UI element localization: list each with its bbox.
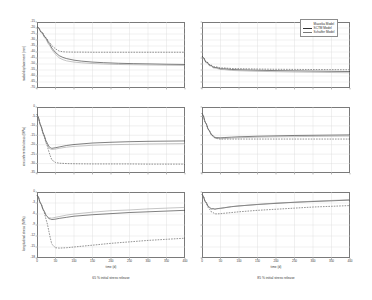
y-tick-label: -25 (26, 32, 35, 35)
y-tick-label: -10 (26, 124, 35, 127)
y-tick-label: -50 (26, 62, 35, 65)
y-axis-label: longitudinal stress (MPa) (22, 216, 26, 251)
y-tick-label: -5 (26, 115, 35, 118)
plot-svg (37, 22, 185, 88)
legend-item[interactable]: Schaffer Model (303, 30, 335, 34)
y-tick-label: -30 (26, 162, 35, 165)
column-caption-right: 85 % initial stress release (202, 276, 350, 280)
x-tick-label: 0 (195, 260, 209, 263)
y-tick-label: -15 (26, 134, 35, 137)
x-tick-label: 100 (67, 260, 81, 263)
x-tick-label: 300 (141, 260, 155, 263)
y-tick-label: -40 (26, 50, 35, 53)
y-tick-label: -18 (26, 256, 35, 259)
y-tick-label: -35 (26, 171, 35, 174)
y-tick-label: -9 (26, 223, 35, 226)
x-tick-label: 300 (306, 260, 320, 263)
y-tick-label: 0 (26, 190, 35, 193)
y-tick-label: -60 (26, 74, 35, 77)
x-tick-label: 50 (214, 260, 228, 263)
panel-middle-right (202, 107, 350, 173)
plot-svg (202, 192, 350, 258)
legend-swatch-solid-icon (303, 26, 312, 29)
x-tick-label: 200 (269, 260, 283, 263)
x-tick-label: 350 (160, 260, 174, 263)
panel-middle-left: 0-5-10-15-20-25-30-35circumferential str… (37, 107, 185, 173)
panel-grid: -15-20-25-30-35-40-45-50-55-60-65-70radi… (0, 0, 372, 300)
y-tick-label: -55 (26, 68, 35, 71)
x-tick-label: 350 (325, 260, 339, 263)
y-tick-label: -15 (26, 20, 35, 23)
x-tick-label: 400 (178, 260, 192, 263)
x-tick-label: 250 (123, 260, 137, 263)
x-axis-label: time (d) (202, 265, 350, 269)
column-caption-left: 65 % initial stress release (37, 276, 185, 280)
legend: Mazzika ModelSCTM ModelSchaffer Model (300, 19, 338, 37)
y-axis-label: circumferential stress (MPa) (22, 127, 26, 166)
legend-swatch-dashed-icon (303, 22, 312, 25)
y-tick-label: -3 (26, 201, 35, 204)
y-tick-label: -6 (26, 212, 35, 215)
x-tick-label: 100 (232, 260, 246, 263)
y-tick-label: 0 (26, 105, 35, 108)
plot-svg (37, 192, 185, 258)
plot-svg (202, 107, 350, 173)
x-tick-label: 150 (86, 260, 100, 263)
x-tick-label: 0 (30, 260, 44, 263)
x-tick-label: 50 (49, 260, 63, 263)
panel-bottom-right: 050100150200250300350400time (d) (202, 192, 350, 258)
x-tick-label: 200 (104, 260, 118, 263)
panel-top-left: -15-20-25-30-35-40-45-50-55-60-65-70radi… (37, 22, 185, 88)
y-tick-label: -70 (26, 86, 35, 89)
y-tick-label: -12 (26, 234, 35, 237)
y-tick-label: -15 (26, 245, 35, 248)
x-tick-label: 250 (288, 260, 302, 263)
y-tick-label: -65 (26, 80, 35, 83)
y-axis-label: radial displacement (mm) (22, 46, 26, 81)
legend-label: Schaffer Model (314, 30, 335, 34)
y-tick-label: -20 (26, 143, 35, 146)
y-tick-label: -35 (26, 44, 35, 47)
x-tick-label: 400 (343, 260, 357, 263)
x-tick-label: 150 (251, 260, 265, 263)
legend-swatch-thin-icon (303, 31, 312, 34)
panel-bottom-left: 0-3-6-9-12-15-18longitudinal stress (MPa… (37, 192, 185, 258)
y-tick-label: -30 (26, 38, 35, 41)
y-tick-label: -25 (26, 153, 35, 156)
x-axis-label: time (d) (37, 265, 185, 269)
figure-root: -15-20-25-30-35-40-45-50-55-60-65-70radi… (0, 0, 372, 300)
plot-svg (37, 107, 185, 173)
y-tick-label: -45 (26, 56, 35, 59)
y-tick-label: -20 (26, 26, 35, 29)
